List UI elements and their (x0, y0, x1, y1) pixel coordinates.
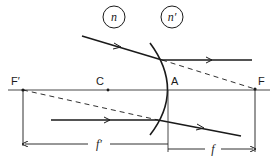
upper-incident-ray (82, 36, 162, 60)
lower-refracted-ray (158, 120, 241, 136)
medium-left-label: n (111, 10, 117, 24)
center-dot (107, 89, 110, 92)
center-label: C (96, 75, 104, 87)
vertex-label: A (171, 75, 179, 87)
focal-point-left-label: F′ (11, 75, 20, 87)
medium-left-badge: n (103, 6, 125, 28)
refraction-diagram: n n′ F′ C A F f′ f (0, 0, 275, 160)
lower-dashed-extension (23, 90, 158, 120)
medium-right-label: n′ (168, 10, 177, 24)
focal-length-left-label: f′ (96, 137, 102, 151)
medium-right-badge: n′ (161, 6, 183, 28)
focal-point-right-label: F (258, 75, 265, 87)
